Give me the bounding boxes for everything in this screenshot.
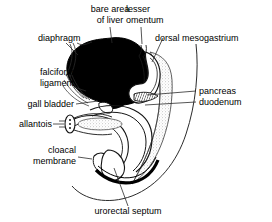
leader-cloacal-membrane xyxy=(78,157,92,159)
anatomical-figure: bare area of liver lesser omentum dorsal… xyxy=(0,0,272,222)
label-dorsal-mesogastrium: dorsal mesogastrium xyxy=(155,33,239,44)
label-diaphragm: diaphragm xyxy=(38,33,81,44)
label-pancreas: pancreas xyxy=(199,86,236,97)
label-gall-bladder: gall bladder xyxy=(0,99,74,110)
allantois xyxy=(65,114,122,135)
leader-lesser-omentum xyxy=(141,27,142,44)
label-allantois: allantois xyxy=(0,119,52,130)
label-falciform-line1: falciform xyxy=(0,67,74,78)
label-urorectal-septum: urorectal septum xyxy=(78,206,178,217)
label-cloacal-line1: cloacal xyxy=(0,145,76,156)
label-lesser-line2: omentum xyxy=(126,15,164,26)
label-lesser-omentum: lesser omentum xyxy=(126,4,164,25)
label-cloacal-membrane: cloacal membrane xyxy=(0,145,76,166)
label-falciform-line2: ligament xyxy=(0,78,74,89)
label-falciform-ligament: falciform ligament xyxy=(0,67,74,88)
label-cloacal-line2: membrane xyxy=(0,156,76,167)
label-lesser-line1: lesser xyxy=(126,4,164,15)
label-duodenum: duodenum xyxy=(199,97,242,108)
